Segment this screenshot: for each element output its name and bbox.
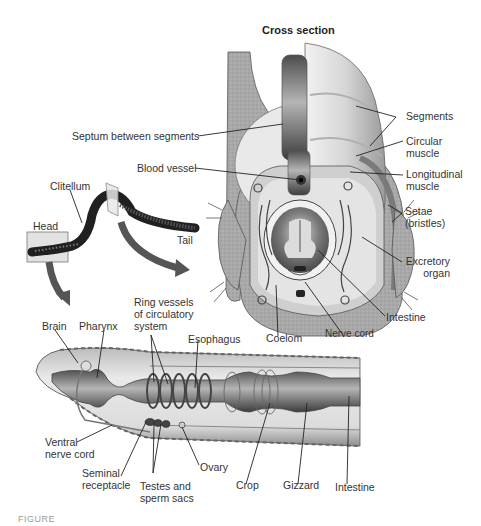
label-longitudinal-muscle: Longitudinal muscle	[406, 168, 476, 192]
label-intestine: Intestine	[335, 481, 375, 493]
label-coelom: Coelom	[266, 332, 302, 344]
label-gizzard: Gizzard	[283, 479, 319, 491]
label-testes-sperm-sacs: Testes and sperm sacs	[140, 480, 198, 504]
label-seminal-receptacle: Seminal receptacle	[82, 467, 142, 491]
label-ring-vessels: Ring vessels of circulatory system	[134, 296, 196, 332]
label-crop: Crop	[236, 479, 259, 491]
label-ventral-nerve-cord: Ventral nerve cord	[45, 436, 100, 460]
label-blood-vessel: Blood vessel	[137, 162, 197, 174]
label-setae: Setae (bristles)	[405, 205, 465, 229]
earthworm-anatomy-diagram: Cross section Segments Circular muscle L…	[0, 0, 481, 526]
label-nerve-cord: Nerve cord	[325, 328, 374, 340]
label-clitellum: Clitellum	[50, 180, 90, 192]
cross-section-illustration	[206, 43, 420, 336]
label-septum: Septum between segments	[72, 130, 199, 142]
label-intestine-cross: Intestine	[386, 311, 426, 323]
label-circular-muscle: Circular muscle	[406, 135, 466, 159]
label-pharynx: Pharynx	[79, 320, 118, 332]
label-segments: Segments	[406, 110, 453, 122]
label-head: Head	[33, 220, 58, 232]
label-esophagus: Esophagus	[188, 333, 241, 345]
cross-section-title: Cross section	[262, 24, 335, 36]
figure-caption: FIGURE	[18, 514, 55, 524]
label-ovary: Ovary	[200, 461, 228, 473]
label-excretory-organ: Excretory organ	[404, 255, 450, 279]
label-brain: Brain	[42, 320, 67, 332]
label-tail: Tail	[177, 234, 193, 246]
whole-worm-illustration	[27, 183, 195, 306]
